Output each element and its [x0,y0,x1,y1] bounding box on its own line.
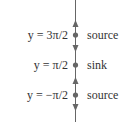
equilibrium-dot [73,32,78,37]
arrow-up-icon [73,20,79,27]
equilibrium-dot [73,62,78,67]
equilibrium-dot [73,92,78,97]
equation-label: y = π/2 [34,58,68,72]
arrow-down-icon [73,45,79,52]
arrow-up-icon [73,77,79,84]
equation-label: y = −π/2 [27,88,68,102]
classification-label: sink [87,58,107,72]
arrow-down-icon [73,104,79,111]
classification-label: source [87,28,118,42]
classification-label: source [87,88,118,102]
equation-label: y = 3π/2 [28,28,68,42]
